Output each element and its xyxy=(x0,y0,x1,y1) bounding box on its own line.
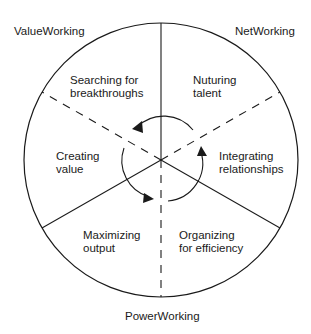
label-valueworking: ValueWorking xyxy=(14,25,85,38)
segment-nuturing-talent: Nuturing talent xyxy=(193,74,236,100)
segment-maximizing-output: Maximizing output xyxy=(83,229,141,255)
segment-searching-for-breakthroughs: Searching for breakthroughs xyxy=(70,74,144,100)
segment-creating-value: Creating value xyxy=(56,150,99,176)
segment-integrating-relationships: Integrating relationships xyxy=(219,150,284,176)
label-networking: NetWorking xyxy=(235,25,295,38)
arrowheads xyxy=(132,121,207,203)
segment-organizing-for-efficiency: Organizing for efficiency xyxy=(179,229,243,255)
label-powerworking: PowerWorking xyxy=(125,310,200,323)
